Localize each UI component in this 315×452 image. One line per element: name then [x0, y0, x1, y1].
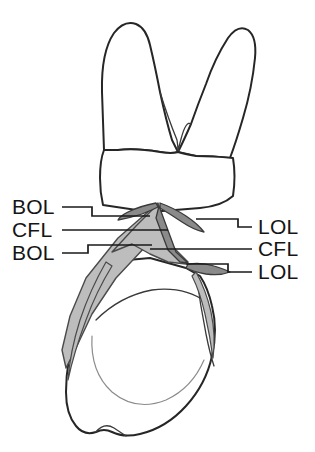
tooth-diagram-figure: BOL CFL BOL LOL CFL LOL	[0, 0, 315, 452]
label-lol-lower-right: LOL	[258, 260, 298, 283]
leader-right-lol-upper	[196, 219, 252, 227]
label-bol-upper-left: BOL	[12, 195, 55, 218]
label-cfl-right: CFL	[258, 237, 298, 260]
tooth-diagram-svg: BOL CFL BOL LOL CFL LOL	[0, 0, 315, 452]
label-bol-lower-left: BOL	[12, 241, 55, 264]
labels-left-group: BOL CFL BOL	[12, 195, 55, 264]
label-lol-upper-right: LOL	[258, 215, 298, 238]
labels-right-group: LOL CFL LOL	[258, 215, 298, 283]
cervical-body-outline	[100, 149, 235, 212]
label-cfl-left: CFL	[12, 218, 52, 241]
mesial-root-outline	[102, 23, 178, 153]
distal-root-outline	[178, 28, 255, 158]
